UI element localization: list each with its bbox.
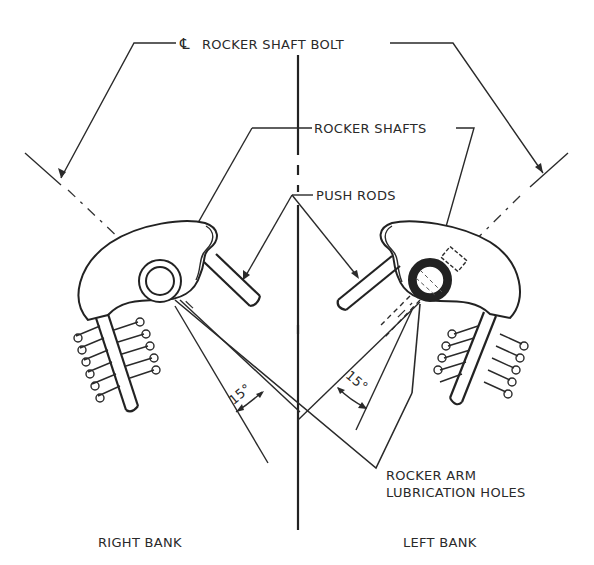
left-valve-spring xyxy=(434,312,528,404)
rocker-arm-label-line2: LUBRICATION HOLES xyxy=(386,485,526,500)
arrowhead-icon xyxy=(58,168,66,178)
right-valve-spring xyxy=(74,314,160,411)
arrowhead-icon xyxy=(535,163,543,173)
right-pushrod xyxy=(204,254,260,306)
right-angle-label: 15° xyxy=(226,381,254,408)
rocker-arm-diagram: ℄ ROCKER SHAFT BOLT ROCKER SHAFTS PUSH R… xyxy=(0,0,594,565)
push-rods-label: PUSH RODS xyxy=(316,188,396,203)
rocker-arm-label-line1: ROCKER ARM xyxy=(386,468,476,483)
left-bank-rocker-assembly xyxy=(338,221,528,404)
right-bank-rocker-assembly xyxy=(74,221,260,411)
left-bank-label: LEFT BANK xyxy=(403,535,477,550)
right-bank-label: RIGHT BANK xyxy=(98,535,182,550)
left-angle-label: 15° xyxy=(343,367,371,394)
rocker-shafts-label: ROCKER SHAFTS xyxy=(314,121,427,136)
centerline-symbol: ℄ xyxy=(179,35,190,53)
push-rods-callout: PUSH RODS xyxy=(243,188,396,280)
rocker-shaft-bolt-callout: ℄ ROCKER SHAFT BOLT xyxy=(58,35,543,178)
arrowhead-icon xyxy=(351,270,359,279)
rocker-shaft-bolt-label: ROCKER SHAFT BOLT xyxy=(202,37,344,52)
lubrication-holes-callout: ROCKER ARM LUBRICATION HOLES xyxy=(175,300,526,500)
